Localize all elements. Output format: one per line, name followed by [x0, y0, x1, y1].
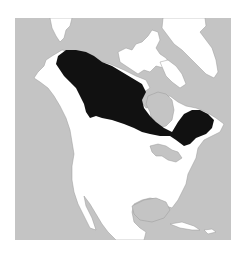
map-frame — [15, 18, 231, 240]
north-america-map — [15, 18, 231, 240]
